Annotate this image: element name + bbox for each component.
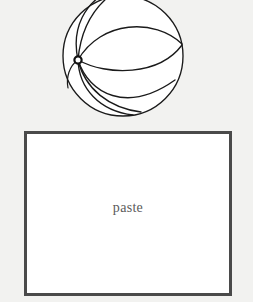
paste-label: paste xyxy=(113,201,143,215)
sphere-arc-upper-meridian xyxy=(78,0,121,60)
sphere-arc-lower-right-outer xyxy=(78,60,133,115)
sphere-arc-node-tangent xyxy=(67,60,78,88)
sphere-arc-upper-left-meridian xyxy=(76,0,111,60)
sphere-node-marker xyxy=(74,56,81,63)
sphere-svg xyxy=(55,0,195,128)
sphere-arc-equator-upper xyxy=(78,27,182,60)
paste-box[interactable]: paste xyxy=(24,131,232,296)
sphere-outline xyxy=(63,0,183,116)
page-canvas: paste xyxy=(0,0,253,302)
sphere-arc-equator-lower xyxy=(78,45,182,71)
sphere-arc-bottom-band xyxy=(78,60,175,98)
sphere-arc-lower-right-inner xyxy=(78,60,141,112)
sphere-figure xyxy=(55,0,195,128)
